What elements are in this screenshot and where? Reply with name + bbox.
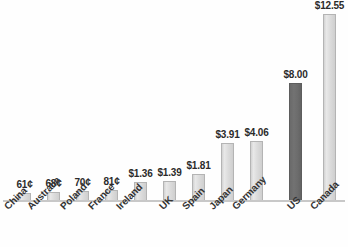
plot-area: 61¢ 68¢ 70¢ 81¢ $1.36 $1.39 $1.81 [0, 0, 348, 202]
value-label: $1.39 [157, 167, 181, 178]
value-label: $3.91 [215, 129, 239, 140]
value-label: $1.36 [128, 168, 152, 179]
value-label: $12.55 [315, 0, 344, 11]
bar-highlighted[interactable] [289, 83, 302, 202]
value-label: $1.81 [186, 160, 210, 171]
bar[interactable] [323, 14, 336, 202]
x-axis-labels: China Australia Poland France Ireland UK… [0, 202, 348, 247]
value-label: $4.06 [244, 127, 268, 138]
bar-chart: 61¢ 68¢ 70¢ 81¢ $1.36 $1.39 $1.81 [0, 0, 348, 247]
value-label: $8.00 [283, 69, 307, 80]
